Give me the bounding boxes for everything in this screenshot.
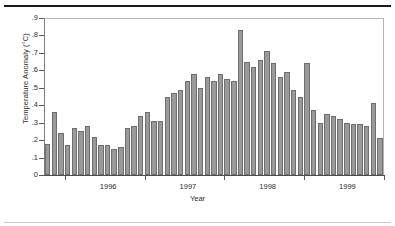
bar	[72, 128, 77, 175]
bar	[165, 97, 170, 176]
bar	[231, 81, 236, 175]
bar	[111, 149, 116, 175]
bar	[151, 121, 156, 175]
x-axis-tick-mark	[224, 176, 225, 180]
bar	[58, 133, 63, 175]
y-axis-tick-label: .7	[20, 49, 38, 56]
bar	[331, 116, 336, 175]
bar	[298, 97, 303, 176]
bar	[78, 131, 83, 175]
bar	[98, 145, 103, 175]
bar	[251, 67, 256, 175]
x-axis-title: Year	[0, 194, 395, 203]
y-axis-tick-label: .1	[20, 154, 38, 161]
bar	[198, 88, 203, 175]
bar	[191, 74, 196, 175]
figure: Temperature Anomaly (°C) .9.8.7.6.5.4.3.…	[0, 0, 395, 226]
bar	[351, 124, 356, 175]
bar	[171, 93, 176, 175]
bottom-rule	[4, 222, 391, 223]
bar	[344, 123, 349, 175]
x-axis-tick-mark	[145, 176, 146, 180]
bar	[178, 90, 183, 175]
y-axis-tick-label: 0	[20, 171, 38, 178]
bar	[371, 103, 376, 175]
bar	[258, 60, 263, 175]
bar	[238, 30, 243, 175]
y-axis-tick-label: .4	[20, 101, 38, 108]
bar	[278, 77, 283, 175]
bar	[118, 147, 123, 175]
bar	[324, 114, 329, 175]
bar-series	[45, 18, 384, 175]
bar	[218, 74, 223, 175]
bar	[337, 119, 342, 175]
bar	[125, 128, 130, 175]
x-axis-tick-label: 1996	[88, 182, 128, 191]
bar	[138, 116, 143, 175]
bar	[185, 81, 190, 175]
bar	[284, 72, 289, 175]
bar	[52, 112, 57, 175]
bar	[377, 138, 382, 175]
bar	[291, 90, 296, 175]
y-axis-tick-label: .6	[20, 66, 38, 73]
bar	[211, 81, 216, 175]
bar	[224, 79, 229, 175]
bar	[304, 63, 309, 175]
bar	[244, 62, 249, 175]
x-axis-tick-mark	[384, 176, 385, 180]
bar	[105, 145, 110, 175]
bar	[145, 112, 150, 175]
x-axis-tick-mark	[65, 176, 66, 180]
bar	[271, 63, 276, 175]
bar	[158, 121, 163, 175]
bar	[205, 77, 210, 175]
bar	[264, 51, 269, 175]
y-axis-tick-labels: .9.8.7.6.5.4.3.2.10	[16, 12, 38, 182]
bar	[318, 123, 323, 175]
y-axis-tick-label: .2	[20, 136, 38, 143]
bar	[357, 124, 362, 175]
top-rule	[4, 5, 391, 7]
x-axis-tick-label: 1997	[168, 182, 208, 191]
x-axis-tick-mark	[304, 176, 305, 180]
bar	[45, 144, 50, 175]
y-axis-tick-label: .9	[20, 14, 38, 21]
bar	[311, 110, 316, 175]
bar	[85, 126, 90, 175]
x-axis-line	[44, 175, 385, 176]
x-axis-tick-label: 1998	[248, 182, 288, 191]
y-axis-tick-label: .8	[20, 31, 38, 38]
bar	[65, 145, 70, 175]
bar	[131, 126, 136, 175]
bar	[364, 126, 369, 175]
y-axis-tick-label: .5	[20, 84, 38, 91]
x-axis-tick-label: 1999	[327, 182, 367, 191]
bar	[92, 137, 97, 175]
chart-plot-wrapper: Temperature Anomaly (°C) .9.8.7.6.5.4.3.…	[0, 12, 395, 212]
y-axis-tick-label: .3	[20, 119, 38, 126]
